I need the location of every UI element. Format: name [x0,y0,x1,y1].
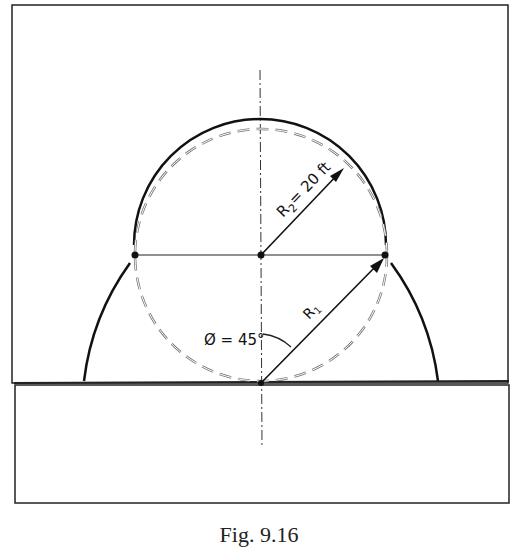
figure-caption: Fig. 9.16 [0,522,518,548]
r1-label: R1 [300,299,324,323]
right-arc-r1 [391,263,438,381]
left-arc-r1 [84,263,130,381]
center-point [258,252,265,259]
angle-arc [263,334,291,347]
left-point [132,252,139,259]
bottom-point [258,380,264,386]
upper-frame [12,5,508,383]
vertical-centerline [260,70,262,448]
r2-label: R2= 20 ft [273,158,336,223]
right-point [382,252,389,259]
angle-label: Ø = 45° [204,331,265,349]
